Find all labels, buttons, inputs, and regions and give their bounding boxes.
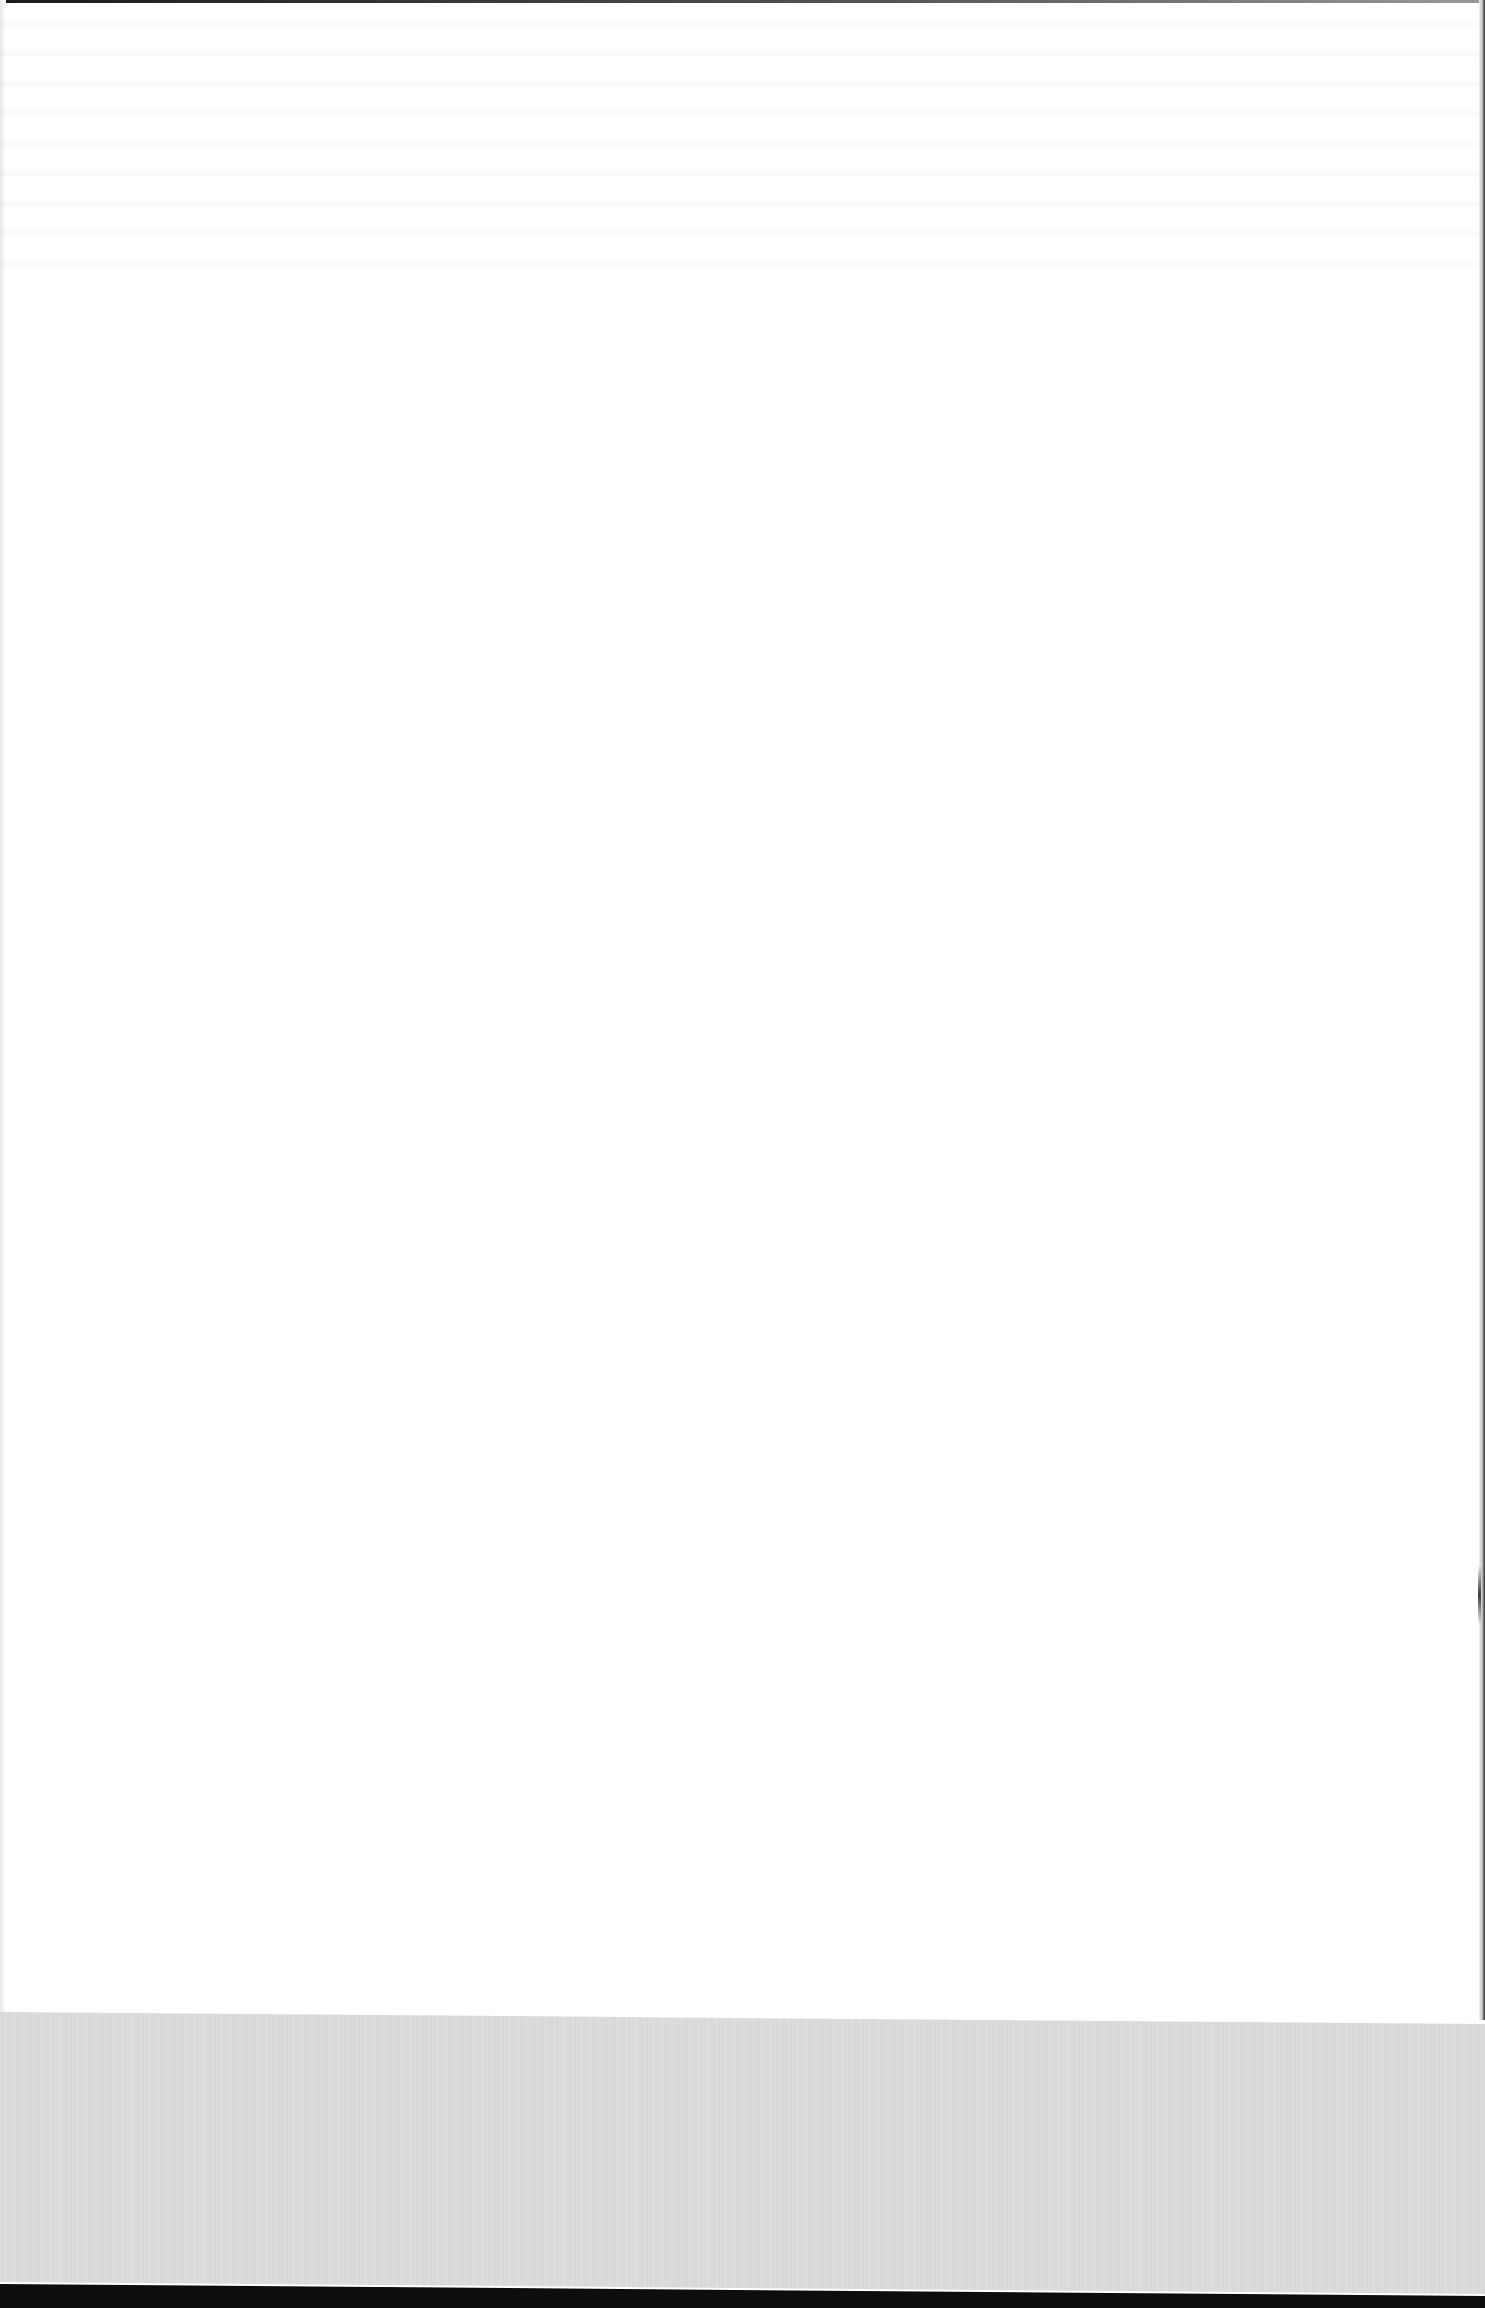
edge-mark bbox=[1478, 1565, 1481, 1625]
scanner-bed-band bbox=[0, 2010, 1485, 2308]
bleed-through-text-artifact bbox=[0, 6, 1485, 276]
scanned-page bbox=[0, 0, 1485, 2308]
scan-right-edge bbox=[1479, 0, 1485, 2020]
scan-top-edge bbox=[0, 0, 1485, 3]
scan-left-edge bbox=[0, 0, 6, 2020]
